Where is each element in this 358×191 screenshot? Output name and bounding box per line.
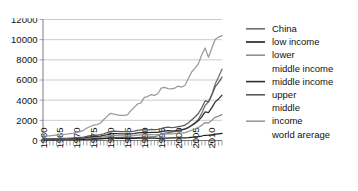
x-tick-label: 2010 xyxy=(206,127,217,148)
y-tick-label: 4000 xyxy=(16,95,37,106)
x-tick-label-group: 2010 xyxy=(206,127,217,148)
legend-label: low income xyxy=(272,36,320,47)
legend-label: middle income xyxy=(272,63,333,74)
legend-label: world arerage xyxy=(271,129,330,140)
y-tick-label: 10000 xyxy=(11,34,37,45)
top-mask xyxy=(0,0,358,18)
legend-label: China xyxy=(272,23,298,34)
chart-canvas: 0200040006000800010000120001960196519701… xyxy=(0,0,358,191)
x-tick-label-group: 1960 xyxy=(38,127,49,148)
x-tick-label: 1960 xyxy=(38,127,49,148)
legend-label: middle xyxy=(272,102,300,113)
legend-label: upper xyxy=(272,89,296,100)
y-tick-label: 8000 xyxy=(16,54,37,65)
line-chart: 0200040006000800010000120001960196519701… xyxy=(0,0,358,191)
y-tick-label: 2000 xyxy=(16,115,37,126)
legend-label: middle income xyxy=(272,76,333,87)
legend-label: income xyxy=(272,115,303,126)
y-tick-label: 6000 xyxy=(16,74,37,85)
series-line-world-arerage xyxy=(43,36,222,136)
legend-label: lower xyxy=(272,49,295,60)
